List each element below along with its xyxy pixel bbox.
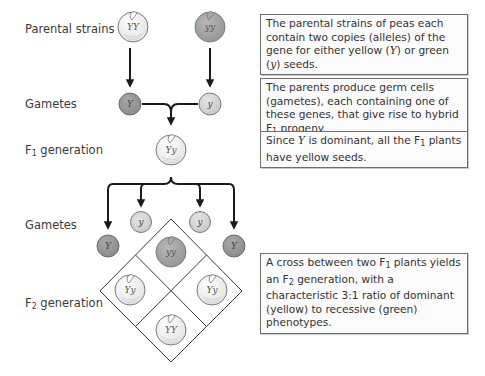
pea-parent-yellow: YY (118, 12, 148, 43)
allele-label: y (206, 99, 213, 109)
pea-f1-hybrid: Yy (156, 135, 186, 166)
gamete-recessive-2b: y (190, 212, 211, 233)
genotype-label: Yy (124, 285, 136, 295)
allele-label: Y (105, 241, 112, 251)
gamete-dominant-2b: Y (223, 235, 245, 257)
genotype-label: Yy (165, 145, 177, 155)
caption-box-parental: The parental strains of peas each contai… (260, 14, 468, 75)
genotype-label: yy (165, 247, 177, 257)
gamete-dominant-2a: Y (97, 235, 119, 257)
genotype-label: Yy (206, 285, 218, 295)
genotype-label: YY (165, 325, 178, 335)
gamete-recessive-2a: y (131, 212, 152, 233)
caption-text: generation, with a characteristic 3:1 ra… (266, 273, 454, 329)
gamete-recessive-1: y (199, 93, 221, 115)
caption-text: A cross between two F (266, 256, 385, 268)
caption-box-f2: A cross between two F1 plants yields an … (260, 253, 468, 334)
caption-box-f1: Since Y is dominant, all the F1 plants h… (260, 131, 468, 168)
allele-label: Y (231, 241, 238, 251)
fork-gametes-to-f1 (142, 104, 198, 124)
allele-label: Y (127, 99, 134, 109)
pea-parent-green: yy (195, 12, 225, 43)
pea-f2-Yy-left: Yy (115, 275, 145, 306)
caption-text: is dominant, all the F (305, 134, 420, 146)
pea-f2-YY-bottom: YY (156, 315, 186, 346)
genotype-label: yy (204, 22, 216, 32)
pea-f2-Yy-right: Yy (197, 275, 227, 306)
allele-label: y (137, 217, 144, 227)
gamete-dominant-1: Y (119, 93, 141, 115)
allele-symbol: Y (390, 44, 397, 56)
caption-text: Since (266, 134, 298, 146)
caption-text: ) seeds. (276, 58, 318, 70)
allele-label: y (196, 217, 203, 227)
pea-f2-yy-green: yy (156, 237, 186, 268)
genotype-label: YY (127, 22, 140, 32)
